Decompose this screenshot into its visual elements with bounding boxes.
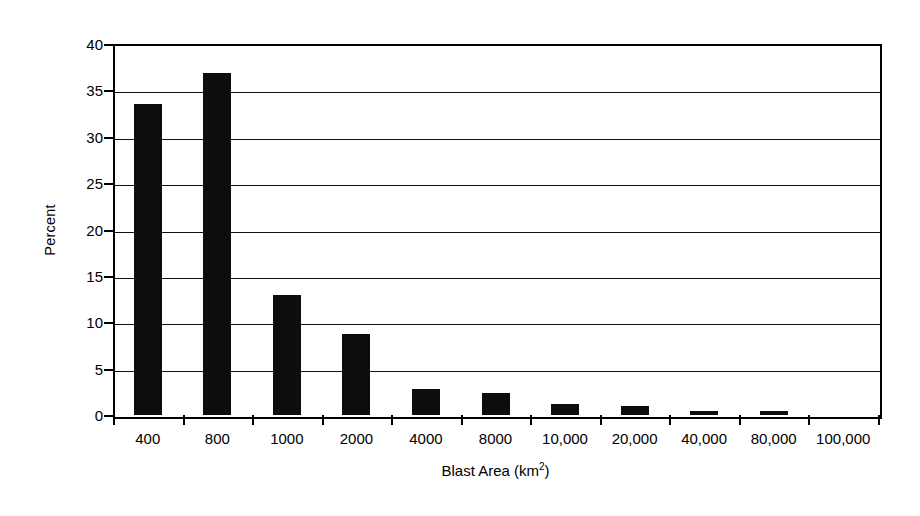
x-axis-tick-label: 100,000: [816, 429, 870, 449]
y-axis-tick: [104, 322, 113, 324]
x-axis-tick-label: 400: [135, 429, 160, 449]
x-axis-tick-label: 4000: [409, 429, 442, 449]
y-axis-tick-label: 5: [61, 361, 103, 376]
x-axis-title-close: ): [545, 462, 550, 479]
x-axis-tick: [252, 415, 254, 425]
x-axis-tick: [878, 415, 880, 425]
x-axis-tick: [808, 415, 810, 425]
y-axis-tick: [104, 415, 113, 417]
x-axis-tick-label: 10,000: [542, 429, 588, 449]
y-axis-tick: [104, 137, 113, 139]
y-axis-tick-labels: 0510152025303540: [55, 44, 103, 415]
bar: [203, 73, 231, 415]
x-axis-tick: [183, 415, 185, 425]
x-axis-title: Blast Area (km2): [113, 462, 878, 479]
y-axis-tick: [104, 90, 113, 92]
y-axis-tick-label: 0: [61, 408, 103, 423]
x-axis-title-base: Blast Area (km: [441, 462, 539, 479]
x-axis-tick-label: 8000: [479, 429, 512, 449]
x-axis-tick: [113, 415, 115, 425]
y-axis-tick-label: 15: [61, 268, 103, 283]
x-axis-tick-labels: 400800100020004000800010,00020,00040,000…: [113, 429, 878, 453]
x-axis-tick: [461, 415, 463, 425]
x-axis-tick: [391, 415, 393, 425]
x-axis-tick-label: 800: [205, 429, 230, 449]
bar: [551, 404, 579, 415]
x-axis-tick-label: 80,000: [751, 429, 797, 449]
bar: [412, 389, 440, 415]
x-axis-ticks: [113, 415, 878, 427]
x-axis-tick-label: 40,000: [681, 429, 727, 449]
x-axis-tick-label: 20,000: [612, 429, 658, 449]
x-axis-tick: [669, 415, 671, 425]
y-axis-tick: [104, 230, 113, 232]
bar: [342, 334, 370, 415]
y-axis-tick-label: 20: [61, 222, 103, 237]
bars-container: [113, 44, 878, 415]
x-axis-tick: [600, 415, 602, 425]
y-axis-tick-label: 10: [61, 315, 103, 330]
x-axis-tick-label: 2000: [340, 429, 373, 449]
bar: [621, 406, 649, 415]
y-axis-tick: [104, 44, 113, 46]
bar: [482, 393, 510, 415]
bar: [134, 104, 162, 415]
y-axis-tick: [104, 369, 113, 371]
y-axis-tick-label: 25: [61, 176, 103, 191]
bar-chart-figure: Percent 0510152025303540 400800100020004…: [0, 0, 920, 516]
y-axis-tick: [104, 276, 113, 278]
x-axis-tick: [739, 415, 741, 425]
y-axis-tick-label: 35: [61, 83, 103, 98]
y-axis-tick-label: 30: [61, 129, 103, 144]
y-axis-tick: [104, 183, 113, 185]
x-axis-tick: [322, 415, 324, 425]
bar: [273, 295, 301, 415]
x-axis-tick-label: 1000: [270, 429, 303, 449]
y-axis-tick-label: 40: [61, 37, 103, 52]
x-axis-tick: [530, 415, 532, 425]
